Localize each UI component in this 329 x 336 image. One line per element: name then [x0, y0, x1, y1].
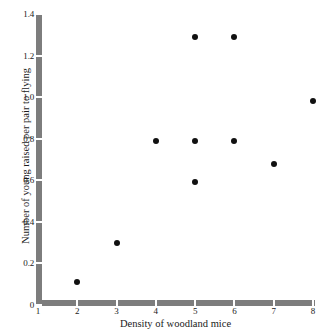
x-tick-label: 4 [149, 307, 163, 316]
y-tick-mark [36, 13, 42, 15]
plot-area: 00.20.40.60.81.01.21.4 12345678 Density … [0, 0, 329, 336]
data-point [114, 240, 120, 246]
data-point [153, 138, 159, 144]
x-tick-label: 1 [31, 307, 45, 316]
y-tick-mark [36, 55, 42, 57]
data-point [192, 179, 198, 185]
data-point [231, 138, 237, 144]
data-point [310, 98, 316, 104]
x-axis-title: Density of woodland mice [36, 318, 315, 330]
scatter-plot-figure: 00.20.40.60.81.01.21.4 12345678 Density … [0, 0, 329, 336]
y-tick-mark [36, 221, 42, 223]
x-tick-label: 2 [70, 307, 84, 316]
x-tick-label: 3 [110, 307, 124, 316]
y-tick-label: 1.4 [8, 10, 34, 19]
x-tick-label: 6 [227, 307, 241, 316]
y-tick-mark [36, 262, 42, 264]
y-tick-mark [36, 96, 42, 98]
x-tick-label: 8 [306, 307, 320, 316]
data-point [192, 34, 198, 40]
x-tick-label: 7 [267, 307, 281, 316]
y-tick-mark [36, 138, 42, 140]
y-tick-mark [36, 179, 42, 181]
data-point [192, 138, 198, 144]
y-axis-title: Number of young raised per pair to flyin… [20, 26, 32, 286]
data-point [271, 161, 277, 167]
data-point [231, 34, 237, 40]
x-tick-label: 5 [188, 307, 202, 316]
data-point [74, 279, 80, 285]
